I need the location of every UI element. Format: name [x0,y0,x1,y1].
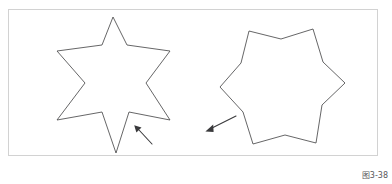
figure-caption: 图3-38 [362,171,388,181]
figure-container: 图3-38 [0,0,392,184]
figure-frame-border [8,9,378,156]
